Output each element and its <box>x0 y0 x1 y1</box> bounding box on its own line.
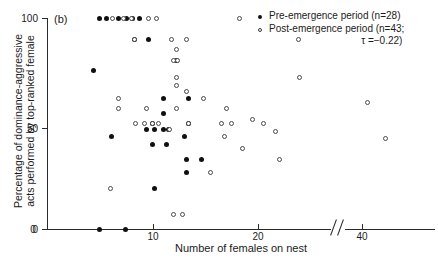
data-point-post-emergence <box>174 47 179 52</box>
data-point-pre-emergence <box>109 134 114 139</box>
data-point-pre-emergence <box>199 157 204 162</box>
data-point-post-emergence <box>108 186 113 191</box>
data-point-pre-emergence <box>164 142 169 147</box>
data-point-pre-emergence <box>161 111 166 116</box>
data-point-post-emergence <box>222 134 227 139</box>
data-point-post-emergence <box>154 16 159 21</box>
data-point-post-emergence <box>237 16 242 21</box>
data-point-pre-emergence <box>186 96 191 101</box>
data-point-pre-emergence <box>184 170 189 175</box>
data-point-post-emergence <box>110 16 115 21</box>
data-point-post-emergence <box>142 121 147 126</box>
data-point-layer <box>0 0 438 263</box>
data-point-post-emergence <box>240 146 245 151</box>
data-point-post-emergence <box>224 106 229 111</box>
data-point-post-emergence <box>174 75 179 80</box>
data-point-pre-emergence <box>152 127 157 132</box>
data-point-pre-emergence <box>146 37 151 42</box>
data-point-pre-emergence <box>97 227 102 232</box>
data-point-post-emergence <box>261 121 266 126</box>
data-point-post-emergence <box>174 106 179 111</box>
data-point-pre-emergence <box>161 127 166 132</box>
data-point-post-emergence <box>273 129 278 134</box>
data-point-post-emergence <box>169 37 174 42</box>
data-point-pre-emergence <box>91 68 96 73</box>
data-point-post-emergence <box>186 121 191 126</box>
data-point-pre-emergence <box>123 227 128 232</box>
data-point-post-emergence <box>208 170 213 175</box>
data-point-post-emergence <box>175 58 180 63</box>
data-point-post-emergence <box>150 121 155 126</box>
data-point-post-emergence <box>171 212 176 217</box>
data-point-post-emergence <box>297 75 302 80</box>
data-point-post-emergence <box>144 106 149 111</box>
data-point-post-emergence <box>133 121 138 126</box>
data-point-post-emergence <box>121 16 126 21</box>
data-point-post-emergence <box>219 121 224 126</box>
data-point-post-emergence <box>132 37 137 42</box>
data-point-post-emergence <box>129 16 134 21</box>
data-point-pre-emergence <box>104 16 109 21</box>
data-point-post-emergence <box>184 37 189 42</box>
scatter-plot-figure: (b) 100 50 0 0 10 20 40 Number of female… <box>0 0 438 263</box>
data-point-post-emergence <box>146 16 151 21</box>
data-point-post-emergence <box>201 96 206 101</box>
data-point-post-emergence <box>184 89 189 94</box>
data-point-post-emergence <box>116 96 121 101</box>
data-point-post-emergence <box>296 37 301 42</box>
data-point-post-emergence <box>116 106 121 111</box>
data-point-post-emergence <box>365 100 370 105</box>
data-point-post-emergence <box>383 136 388 141</box>
data-point-pre-emergence <box>161 96 166 101</box>
data-point-pre-emergence <box>150 142 155 147</box>
data-point-pre-emergence <box>184 157 189 162</box>
data-point-pre-emergence <box>144 127 149 132</box>
data-point-post-emergence <box>277 157 282 162</box>
data-point-post-emergence <box>167 127 172 132</box>
data-point-pre-emergence <box>137 16 142 21</box>
data-point-pre-emergence <box>152 186 157 191</box>
data-point-post-emergence <box>180 212 185 217</box>
data-point-pre-emergence <box>182 134 187 139</box>
data-point-post-emergence <box>250 117 255 122</box>
data-point-post-emergence <box>174 83 179 88</box>
data-point-post-emergence <box>156 121 161 126</box>
data-point-pre-emergence <box>97 16 102 21</box>
data-point-post-emergence <box>229 121 234 126</box>
